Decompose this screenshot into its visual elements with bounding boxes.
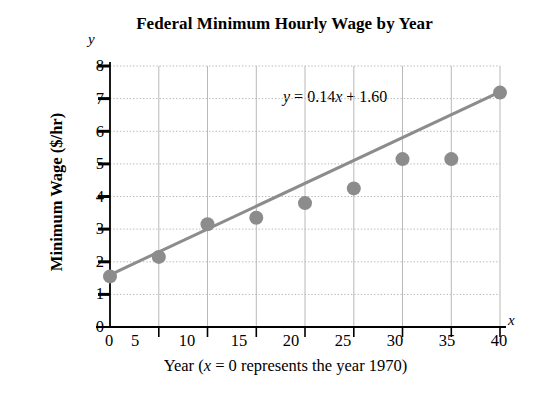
data-point (201, 217, 215, 231)
data-point (493, 86, 507, 100)
y-axis-ticks (98, 66, 110, 294)
x-axis-ticks (159, 327, 500, 337)
chart-figure: Federal Minimum Hourly Wage by Year y x … (0, 0, 541, 403)
data-point (396, 152, 410, 166)
data-point (444, 152, 458, 166)
data-point (347, 181, 361, 195)
data-point (249, 211, 263, 225)
data-point (103, 269, 117, 283)
data-point (152, 250, 166, 264)
chart-canvas (0, 0, 541, 403)
data-point (298, 196, 312, 210)
